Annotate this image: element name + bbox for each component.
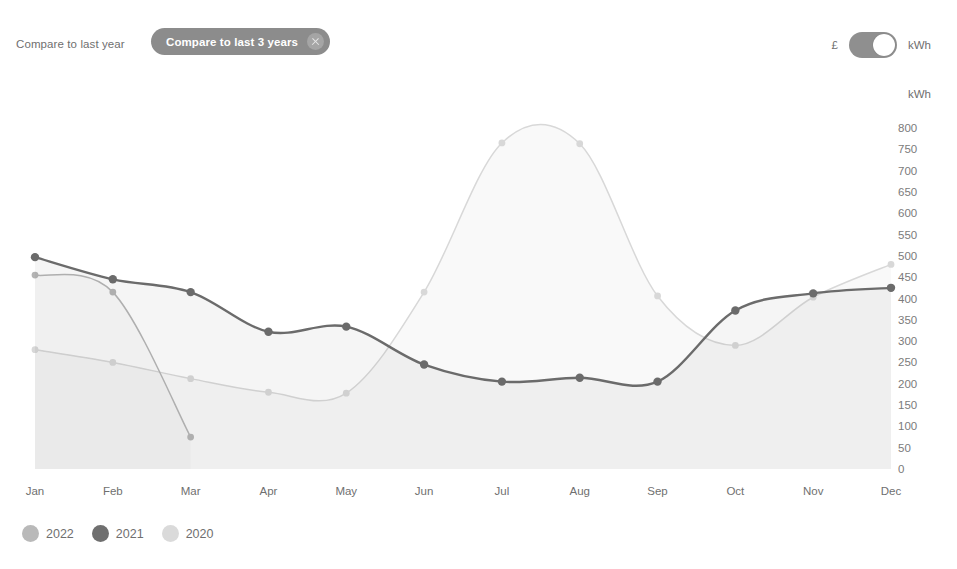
x-axis-tick-jul: Jul: [495, 485, 510, 497]
x-axis-tick-labels: JanFebMarAprMayJunJulAugSepOctNovDec: [0, 485, 957, 503]
data-point-2021[interactable]: [887, 284, 895, 292]
y-axis-tick: 400: [898, 293, 917, 305]
x-axis-tick-jun: Jun: [415, 485, 434, 497]
data-point-2020[interactable]: [576, 140, 583, 147]
legend-label: 2021: [116, 527, 144, 541]
y-axis-tick: 650: [898, 186, 917, 198]
x-axis-tick-oct: Oct: [726, 485, 744, 497]
chart-plot-canvas: [0, 0, 957, 569]
legend-item-2022[interactable]: 2022: [22, 525, 74, 542]
y-axis-tick: 800: [898, 122, 917, 134]
chart-legend: 202220212020: [22, 525, 223, 542]
x-axis-tick-apr: Apr: [260, 485, 278, 497]
energy-usage-line-chart: kWh 800750700650600550500450400350300250…: [0, 0, 957, 569]
legend-label: 2020: [186, 527, 214, 541]
legend-swatch-icon: [22, 525, 39, 542]
x-axis-tick-feb: Feb: [103, 485, 123, 497]
data-point-2021[interactable]: [731, 306, 739, 314]
data-point-2021[interactable]: [809, 289, 817, 297]
y-axis-tick: 300: [898, 335, 917, 347]
data-point-2020[interactable]: [421, 289, 428, 296]
x-axis-tick-aug: Aug: [569, 485, 589, 497]
y-axis-tick: 700: [898, 165, 917, 177]
x-axis-tick-may: May: [335, 485, 357, 497]
data-point-2021[interactable]: [186, 288, 194, 296]
x-axis-tick-dec: Dec: [881, 485, 901, 497]
legend-item-2021[interactable]: 2021: [92, 525, 144, 542]
data-point-2021[interactable]: [420, 360, 428, 368]
y-axis-tick: 150: [898, 399, 917, 411]
legend-label: 2022: [46, 527, 74, 541]
data-point-2021[interactable]: [109, 275, 117, 283]
y-axis-tick: 750: [898, 143, 917, 155]
y-axis-tick: 500: [898, 250, 917, 262]
y-axis-tick: 450: [898, 271, 917, 283]
data-point-2020[interactable]: [499, 140, 506, 147]
data-point-2021[interactable]: [342, 322, 350, 330]
y-axis-tick-labels: 8007507006506005505004504003503002502001…: [898, 0, 942, 569]
y-axis-tick: 100: [898, 420, 917, 432]
y-axis-tick: 0: [898, 463, 904, 475]
y-axis-tick: 600: [898, 207, 917, 219]
data-point-2021[interactable]: [498, 377, 506, 385]
data-point-2021[interactable]: [264, 328, 272, 336]
data-point-2021[interactable]: [31, 253, 39, 261]
data-point-2020[interactable]: [888, 261, 895, 268]
legend-swatch-icon: [92, 525, 109, 542]
x-axis-tick-jan: Jan: [26, 485, 45, 497]
y-axis-tick: 50: [898, 442, 911, 454]
legend-swatch-icon: [162, 525, 179, 542]
y-axis-tick: 550: [898, 229, 917, 241]
legend-item-2020[interactable]: 2020: [162, 525, 214, 542]
data-point-2020[interactable]: [654, 293, 661, 300]
y-axis-tick: 350: [898, 314, 917, 326]
x-axis-tick-nov: Nov: [803, 485, 823, 497]
data-point-2021[interactable]: [576, 374, 584, 382]
data-point-2021[interactable]: [653, 377, 661, 385]
x-axis-tick-mar: Mar: [181, 485, 201, 497]
y-axis-tick: 250: [898, 356, 917, 368]
y-axis-tick: 200: [898, 378, 917, 390]
x-axis-tick-sep: Sep: [647, 485, 667, 497]
